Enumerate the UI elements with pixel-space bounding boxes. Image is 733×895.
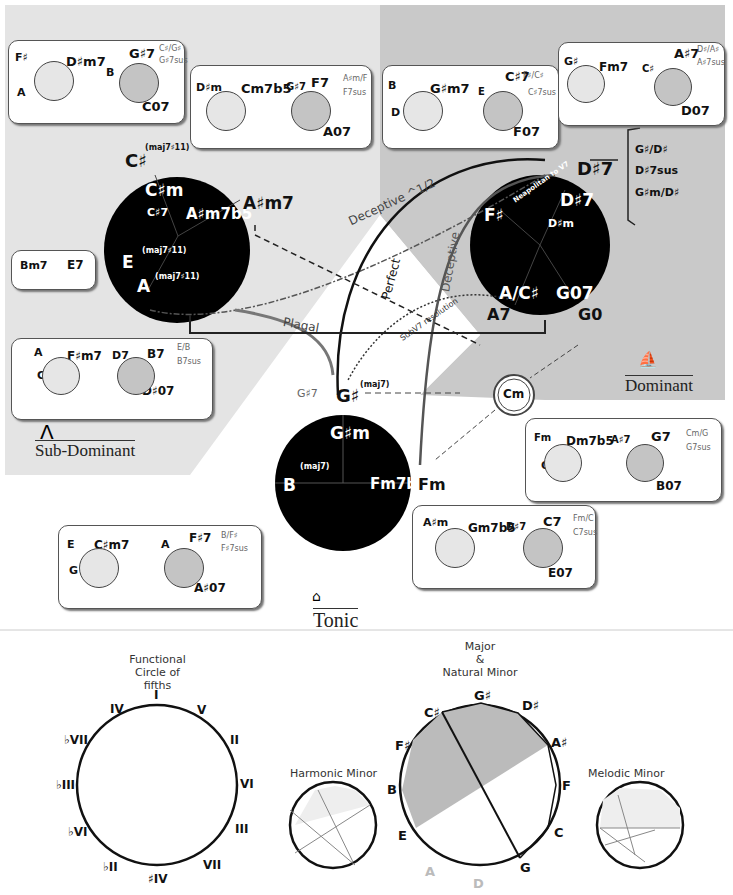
chord: E bbox=[478, 86, 485, 97]
note: D♯ bbox=[522, 698, 539, 713]
chord-c-sharp: C♯ bbox=[125, 150, 147, 171]
mini-circle bbox=[164, 548, 204, 588]
alt-chord: C7sus bbox=[573, 528, 597, 537]
mini-circle bbox=[206, 91, 246, 131]
functional-circle bbox=[77, 705, 237, 865]
chord-c-sharp-m: C♯m bbox=[145, 180, 183, 200]
alt-chord: F7sus bbox=[343, 88, 366, 97]
chord: Bm7 bbox=[20, 259, 48, 272]
mini-circle bbox=[117, 357, 155, 395]
chord-a: A bbox=[137, 276, 150, 296]
chord-a-sharp-m7: A♯m7 bbox=[243, 193, 294, 213]
chord-box-7: Fm G♯ Dm7b5 A♯7 G7 B07 Cm/G G7sus bbox=[525, 418, 722, 502]
chord-c-sharp-7: C♯7 bbox=[147, 206, 168, 219]
alt-chord: C♯/G♯ bbox=[159, 44, 181, 53]
note: E bbox=[398, 828, 407, 843]
alt-chord: G♯7sus bbox=[159, 56, 188, 65]
chord-box-1: F♯ A D♯m7 B G♯7 C07 C♯/G♯ G♯7sus bbox=[8, 40, 185, 124]
chord: A bbox=[161, 538, 170, 551]
numeral: III bbox=[235, 822, 248, 836]
mini-circle bbox=[544, 444, 582, 482]
mini-circle bbox=[483, 91, 523, 131]
chord: B7 bbox=[147, 347, 165, 361]
note: B bbox=[387, 782, 397, 797]
sailboat-icon: ⛵ bbox=[638, 350, 658, 369]
chord-a7: A7 bbox=[487, 305, 511, 324]
mini-circle bbox=[42, 357, 80, 395]
numeral: VII bbox=[203, 858, 221, 872]
major-title: Major & Natural Minor bbox=[440, 640, 520, 679]
chord: D♯m7 bbox=[66, 54, 106, 69]
chord: Fm bbox=[534, 432, 551, 443]
chord: G♯7 bbox=[129, 46, 155, 61]
house-icon: ⌂ bbox=[312, 588, 321, 604]
chord: D bbox=[391, 106, 400, 119]
numeral: IV bbox=[110, 702, 124, 716]
alt-chord: Fm/C bbox=[573, 514, 594, 523]
chord-a-over-c-sharp: A/C♯ bbox=[499, 283, 539, 303]
chord-box-8: E G C♯m7 A F♯7 A♯07 B/F♯ F♯7sus bbox=[58, 525, 262, 609]
chord: G♯ bbox=[564, 55, 578, 68]
chord: F♯7 bbox=[189, 531, 211, 545]
chord-sup: (maj7♯11) bbox=[142, 246, 186, 255]
title-line: Natural Minor bbox=[440, 666, 520, 679]
numeral: V bbox=[197, 703, 206, 717]
chord: A bbox=[34, 346, 43, 359]
note: D bbox=[473, 876, 484, 891]
alt-chord: F♯7sus bbox=[221, 544, 248, 553]
numeral: VI bbox=[240, 777, 254, 791]
note: C♯ bbox=[424, 705, 440, 720]
chord: B07 bbox=[656, 479, 682, 493]
chord: C7 bbox=[543, 514, 562, 529]
mini-circle bbox=[654, 68, 692, 106]
chord: Dm7b5 bbox=[566, 434, 614, 448]
chord-sup: (maj7♯11) bbox=[145, 143, 189, 152]
numeral: ♭II bbox=[103, 860, 118, 874]
alt-chord: Cm/G bbox=[686, 429, 708, 438]
chord: B bbox=[106, 66, 114, 79]
mini-circle bbox=[119, 63, 159, 103]
chord-sup: (maj7♯11) bbox=[155, 272, 199, 281]
dominant-label: Dominant bbox=[625, 375, 693, 396]
chord-g0: G0 bbox=[578, 305, 602, 324]
chord: G♯m7 bbox=[430, 81, 470, 96]
chord-d-sharp-7-inner: D♯7 bbox=[560, 190, 594, 210]
mini-circle bbox=[567, 65, 605, 103]
alt-chord: B/F♯ bbox=[221, 531, 238, 540]
chord: E bbox=[67, 538, 75, 551]
chord-cm: Cm bbox=[503, 387, 524, 401]
chord: F7 bbox=[311, 75, 329, 90]
note: C bbox=[554, 825, 564, 840]
alt-chord: G♯m/D♯ bbox=[635, 186, 679, 199]
chord-b: B bbox=[283, 475, 296, 495]
harmonic-minor-title: Harmonic Minor bbox=[290, 767, 377, 780]
numeral: ♭III bbox=[56, 778, 75, 792]
chord: F07 bbox=[513, 124, 540, 139]
mini-circle bbox=[435, 528, 475, 568]
tonic-label: Tonic bbox=[313, 608, 358, 632]
chord: A♯07 bbox=[194, 581, 226, 595]
chord-g-sharp-m: G♯m bbox=[330, 423, 370, 443]
chord: Cm7b5 bbox=[241, 81, 291, 96]
melodic-minor-title: Melodic Minor bbox=[588, 767, 664, 780]
note: A bbox=[425, 864, 435, 879]
title-line: Functional bbox=[120, 653, 195, 666]
alt-chord: F♯/C♯ bbox=[523, 71, 544, 80]
chord-g-sharp-7: G♯7 bbox=[297, 387, 318, 400]
chord: C♯ bbox=[642, 63, 654, 74]
alt-chord: D♯/A♯ bbox=[697, 45, 719, 54]
chord: G♯7 bbox=[286, 81, 306, 92]
chord-box-6: A C F♯m7 D7 B7 D♯07 E/B B7sus bbox=[11, 338, 213, 420]
numeral: ♯IV bbox=[148, 872, 168, 886]
chord: B bbox=[388, 79, 396, 92]
note: F bbox=[562, 778, 571, 793]
mini-circle bbox=[626, 444, 664, 482]
chord-e: E bbox=[122, 252, 134, 272]
chord-f-sharp: F♯ bbox=[484, 205, 504, 225]
alt-chord: G♯/D♯ bbox=[635, 143, 668, 156]
alt-chord: B7sus bbox=[177, 357, 201, 366]
chord: D07 bbox=[681, 103, 710, 118]
chord: G bbox=[69, 564, 78, 577]
note: G♯ bbox=[474, 688, 491, 703]
mini-circle bbox=[291, 91, 331, 131]
